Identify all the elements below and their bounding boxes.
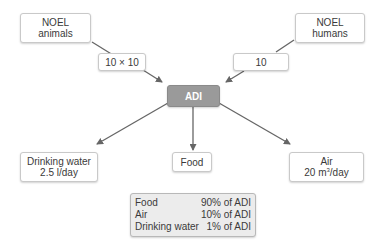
factor-animals-label: 10 × 10: [105, 57, 139, 68]
noel-humans-line2: humans: [312, 28, 348, 39]
adi-share-summary: Food 90% of ADI Air 10% of ADI Drinking …: [130, 193, 256, 237]
factor-humans-node: 10: [233, 53, 289, 71]
summary-row-air: Air 10% of ADI: [135, 209, 251, 221]
drinking-water-line2: 2.5 l/day: [40, 167, 78, 178]
summary-row-food: Food 90% of ADI: [135, 197, 251, 209]
factor-animals-node: 10 × 10: [98, 53, 146, 71]
drinking-water-node: Drinking water 2.5 l/day: [20, 152, 98, 182]
summary-row-drinking-water: Drinking water 1% of ADI: [135, 221, 251, 233]
air-line1: Air: [320, 156, 332, 167]
noel-animals-line1: NOEL: [42, 17, 69, 28]
noel-animals-node: NOEL animals: [20, 13, 91, 43]
adi-label: ADI: [185, 91, 202, 102]
noel-humans-line1: NOEL: [316, 17, 343, 28]
air-line2: 20 m3/day: [304, 167, 348, 178]
noel-animals-line2: animals: [38, 28, 72, 39]
factor-humans-label: 10: [255, 57, 266, 68]
adi-node: ADI: [167, 85, 220, 107]
food-label: Food: [181, 157, 204, 168]
air-node: Air 20 m3/day: [289, 152, 364, 182]
noel-humans-node: NOEL humans: [295, 13, 365, 43]
drinking-water-line1: Drinking water: [27, 156, 91, 167]
food-node: Food: [172, 152, 212, 172]
